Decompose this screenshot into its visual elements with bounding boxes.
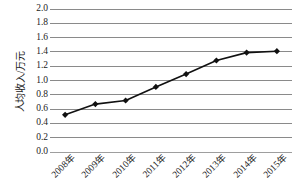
data-point-marker — [274, 48, 280, 54]
y-axis-tick-label: 1.6 — [27, 33, 48, 43]
y-axis-tick-label: 0.2 — [27, 133, 48, 143]
y-axis-title: 人均收入/万元 — [14, 36, 27, 128]
y-axis-tick-label: 1.2 — [27, 61, 48, 71]
data-point-marker — [92, 101, 98, 107]
data-series — [50, 9, 292, 152]
y-axis-tick-label: 0.0 — [27, 147, 48, 157]
series-markers — [62, 48, 280, 118]
y-axis-tick-label: 1.8 — [27, 19, 48, 29]
y-axis-tick-label: 0.8 — [27, 90, 48, 100]
data-point-marker — [213, 57, 219, 63]
data-point-marker — [62, 112, 68, 118]
plot-area — [50, 9, 292, 152]
data-point-marker — [123, 97, 129, 103]
line-chart: 人均收入/万元 2.01.81.61.41.21.00.80.60.40.20.… — [0, 0, 305, 189]
data-point-marker — [183, 71, 189, 77]
x-axis-tick-labels: 2008年2009年2010年2011年2012年2013年2014年2015年 — [50, 152, 292, 189]
y-axis-tick-label: 0.6 — [27, 104, 48, 114]
y-axis-tick-label: 1.4 — [27, 47, 48, 57]
data-point-marker — [244, 50, 250, 56]
data-point-marker — [153, 84, 159, 90]
y-axis-tick-label: 1.0 — [27, 76, 48, 86]
y-axis-tick-label: 0.4 — [27, 119, 48, 129]
y-axis-tick-labels: 2.01.81.61.41.21.00.80.60.40.20.0 — [27, 9, 48, 152]
y-axis-tick-label: 2.0 — [27, 4, 48, 14]
